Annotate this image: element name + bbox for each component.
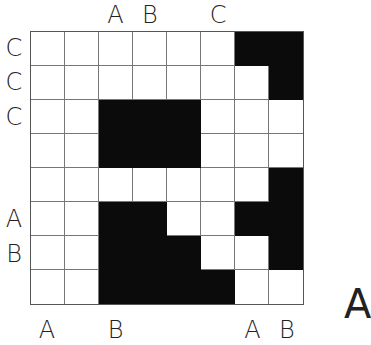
grid-cell-r5c2[interactable] (65, 168, 99, 202)
grid-cell-r1c6[interactable] (201, 32, 235, 66)
grid-cell-r5c6[interactable] (201, 168, 235, 202)
grid-cell-r1c5[interactable] (167, 32, 201, 66)
grid-cell-r2c3[interactable] (99, 66, 133, 100)
grid-cell-r6c8[interactable] (269, 202, 303, 236)
grid-cell-r3c2[interactable] (65, 100, 99, 134)
grid-cell-r4c8[interactable] (269, 134, 303, 168)
grid-cell-r2c2[interactable] (65, 66, 99, 100)
grid-cell-r2c8[interactable] (269, 66, 303, 100)
grid-cell-r1c4[interactable] (133, 32, 167, 66)
grid-cell-r7c4[interactable] (133, 236, 167, 270)
grid-cell-r1c2[interactable] (65, 32, 99, 66)
grid-cell-r5c5[interactable] (167, 168, 201, 202)
bottom-label-col3: B (99, 318, 133, 342)
grid-cell-r4c7[interactable] (235, 134, 269, 168)
puzzle-grid (30, 31, 304, 305)
grid-cell-r1c8[interactable] (269, 32, 303, 66)
grid-cell-r8c6[interactable] (201, 270, 235, 304)
grid-cell-r7c3[interactable] (99, 236, 133, 270)
grid-cell-r8c7[interactable] (235, 270, 269, 304)
grid-cell-r3c1[interactable] (31, 100, 65, 134)
grid-cell-r6c4[interactable] (133, 202, 167, 236)
grid-cell-r7c6[interactable] (201, 236, 235, 270)
grid-cell-r8c3[interactable] (99, 270, 133, 304)
grid-cell-r5c1[interactable] (31, 168, 65, 202)
left-label-row1: C (2, 36, 26, 60)
grid-cell-r2c7[interactable] (235, 66, 269, 100)
grid-cell-r6c1[interactable] (31, 202, 65, 236)
grid-cell-r2c6[interactable] (201, 66, 235, 100)
top-label-col3: A (99, 3, 133, 27)
grid-cell-r5c8[interactable] (269, 168, 303, 202)
grid-cell-r4c2[interactable] (65, 134, 99, 168)
grid-cell-r5c4[interactable] (133, 168, 167, 202)
grid-cell-r8c1[interactable] (31, 270, 65, 304)
grid-cell-r7c8[interactable] (269, 236, 303, 270)
grid-cell-r7c2[interactable] (65, 236, 99, 270)
grid-cell-r7c1[interactable] (31, 236, 65, 270)
grid-cell-r8c4[interactable] (133, 270, 167, 304)
left-label-row7: B (2, 242, 26, 266)
clipped-label: A (344, 284, 371, 324)
bottom-label-col1: A (30, 318, 64, 342)
top-label-col4: B (133, 3, 167, 27)
grid-cell-r3c8[interactable] (269, 100, 303, 134)
grid-cell-r4c6[interactable] (201, 134, 235, 168)
left-label-row2: C (2, 70, 26, 94)
grid-cell-r7c7[interactable] (235, 236, 269, 270)
grid-cell-r4c5[interactable] (167, 134, 201, 168)
grid-cell-r3c6[interactable] (201, 100, 235, 134)
grid-cell-r3c3[interactable] (99, 100, 133, 134)
bottom-label-col7: A (236, 318, 270, 342)
grid-cell-r4c1[interactable] (31, 134, 65, 168)
grid-cell-r6c6[interactable] (201, 202, 235, 236)
grid-cell-r6c5[interactable] (167, 202, 201, 236)
grid-cell-r1c7[interactable] (235, 32, 269, 66)
grid-cell-r4c4[interactable] (133, 134, 167, 168)
left-label-row3: C (2, 105, 26, 129)
grid-cell-r7c5[interactable] (167, 236, 201, 270)
grid-cell-r6c2[interactable] (65, 202, 99, 236)
grid-cell-r1c1[interactable] (31, 32, 65, 66)
top-label-col6: C (201, 3, 235, 27)
grid-cell-r8c5[interactable] (167, 270, 201, 304)
grid-cell-r2c5[interactable] (167, 66, 201, 100)
grid-cell-r1c3[interactable] (99, 32, 133, 66)
grid-cell-r3c4[interactable] (133, 100, 167, 134)
grid-cell-r6c7[interactable] (235, 202, 269, 236)
grid-cell-r2c1[interactable] (31, 66, 65, 100)
grid-cell-r6c3[interactable] (99, 202, 133, 236)
grid-cell-r5c7[interactable] (235, 168, 269, 202)
grid-cell-r3c7[interactable] (235, 100, 269, 134)
grid-cell-r4c3[interactable] (99, 134, 133, 168)
grid-cell-r8c8[interactable] (269, 270, 303, 304)
grid-cell-r2c4[interactable] (133, 66, 167, 100)
bottom-label-col8: B (270, 318, 304, 342)
grid-cell-r8c2[interactable] (65, 270, 99, 304)
left-label-row6: A (2, 207, 26, 231)
grid-cell-r3c5[interactable] (167, 100, 201, 134)
grid-cell-r5c3[interactable] (99, 168, 133, 202)
